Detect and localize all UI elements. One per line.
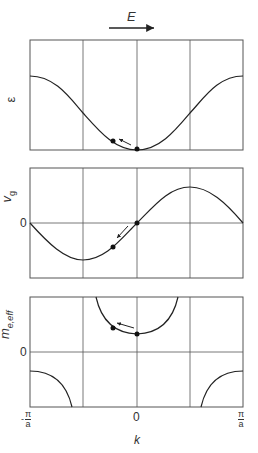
velocity-ylabel: vg [0,191,17,203]
tick-zero: 0 [133,410,140,424]
tick-neg-pi-over-a: - π a [25,410,31,429]
velocity-point-final [111,245,116,250]
state-point-initial [135,147,140,152]
energy-panel [30,40,243,152]
velocity-zero-label: 0 [20,216,27,230]
tick-pi-over-a: π a [238,410,244,429]
xaxis-label: k [134,433,140,447]
mass-ylabel: me,eff [0,311,15,339]
energy-ylabel: ε [3,97,18,103]
effective-mass-panel [30,297,243,407]
mass-point-final [111,326,116,331]
mass-curve-left [30,371,72,407]
energy-curve [30,76,243,150]
field-label: E [127,9,136,24]
state-point-final [111,139,116,144]
band-structure-diagram [0,0,258,453]
mass-curve-right [201,371,243,407]
mass-zero-label: 0 [20,345,27,359]
velocity-point-initial [135,221,140,226]
mass-point-initial [135,332,140,337]
group-velocity-panel [30,168,243,278]
